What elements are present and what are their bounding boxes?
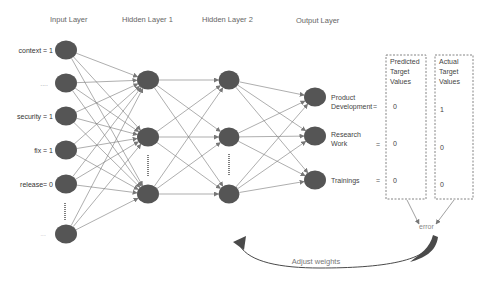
output-eq-product: = — [373, 103, 377, 110]
predicted-value-research: 0 — [393, 140, 397, 147]
edge-hidden2-1-to-output-0 — [239, 101, 306, 133]
input-label-ellipsis-2: .... — [40, 231, 46, 237]
predicted-box-title: Predicted Target Values — [390, 58, 422, 85]
edge-input-3-to-hidden1-0 — [74, 86, 139, 144]
adjust-weights-arrowhead — [233, 236, 246, 250]
actual-value-product: 1 — [440, 106, 444, 113]
predicted-value-product: 0 — [393, 103, 397, 110]
edge-hidden2-0-to-output-2 — [236, 87, 308, 173]
actual-values-box — [435, 55, 473, 199]
hidden-layer-2-title: Hidden Layer 2 — [202, 15, 253, 24]
edge-hidden2-2-to-output-2 — [239, 182, 304, 193]
hidden2-node-0 — [219, 71, 240, 90]
edge-input-0-to-hidden1-0 — [76, 53, 137, 76]
input-node-0 — [55, 41, 77, 60]
edge-input-5-to-hidden1-0 — [71, 88, 143, 225]
edge-input-5-to-hidden1-2 — [76, 198, 138, 230]
output-node-0 — [304, 88, 326, 107]
input-label-release: release= 0 — [20, 181, 53, 188]
predicted-values-box — [386, 55, 426, 199]
predicted-to-error-arrow — [407, 200, 419, 224]
edge-input-0-to-hidden1-2 — [71, 58, 142, 185]
input-layer-title: Input Layer — [50, 15, 88, 24]
edge-hidden2-2-to-output-1 — [238, 141, 306, 188]
edge-input-1-to-hidden1-1 — [75, 88, 139, 132]
hidden2-node-1 — [219, 128, 240, 147]
edge-input-3-to-hidden1-2 — [76, 154, 139, 189]
nodes — [55, 41, 326, 244]
output-label-research: Research Work — [331, 131, 363, 147]
actual-value-research: 0 — [440, 144, 444, 151]
connections — [71, 53, 308, 230]
input-label-ellipsis-1: .... — [40, 80, 48, 87]
hidden1-node-1 — [137, 128, 159, 147]
edge-hidden2-1-to-output-1 — [239, 136, 304, 137]
hidden2-node-2 — [219, 185, 240, 204]
adjust-weights-label: Adjust weights — [292, 257, 341, 266]
input-label-security: security = 1 — [17, 113, 53, 121]
edge-input-1-to-hidden1-0 — [77, 80, 137, 82]
edge-input-0-to-hidden1-1 — [74, 57, 141, 130]
edge-hidden2-1-to-output-2 — [238, 141, 305, 176]
predicted-value-trainings: 0 — [393, 177, 397, 184]
hidden1-node-2 — [137, 185, 159, 204]
edge-input-3-to-hidden1-1 — [77, 138, 137, 148]
actual-box-title: Actual Target Values — [439, 58, 460, 85]
input-node-3 — [55, 141, 77, 160]
adjust-weights-curve-thick — [410, 235, 438, 262]
edge-input-2-to-hidden1-0 — [76, 84, 138, 112]
hidden1-node-0 — [137, 71, 159, 90]
output-node-1 — [304, 127, 326, 146]
actual-value-trainings: 0 — [440, 181, 444, 188]
input-label-fix: fix = 1 — [34, 147, 53, 154]
output-eq-research: = — [376, 141, 380, 148]
input-label-context: context = 1 — [19, 47, 54, 54]
output-layer-title: Output Layer — [296, 16, 340, 25]
output-eq-trainings: = — [376, 177, 380, 184]
error-label: error — [419, 223, 434, 230]
input-node-2 — [55, 107, 77, 126]
input-node-5 — [55, 225, 77, 244]
output-node-2 — [304, 171, 326, 190]
input-node-1 — [55, 74, 77, 93]
neural-network-diagram: Input Layer Hidden Layer 1 Hidden Layer … — [0, 0, 489, 286]
hidden-layer-1-title: Hidden Layer 1 — [122, 15, 173, 24]
edge-hidden2-0-to-output-0 — [239, 82, 304, 95]
output-label-product: Product Development — [331, 94, 372, 111]
edge-input-4-to-hidden1-2 — [77, 185, 137, 193]
edge-hidden2-0-to-output-1 — [238, 85, 306, 131]
input-node-4 — [55, 175, 77, 194]
actual-to-error-arrow — [436, 200, 454, 224]
output-label-trainings: Trainings — [331, 177, 360, 185]
edge-input-4-to-hidden1-0 — [73, 87, 141, 176]
